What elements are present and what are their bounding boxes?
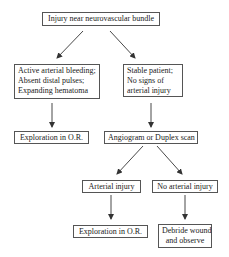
node-label: Arterial injury: [86, 182, 137, 192]
node-label: Injury near neurovascular bundle: [46, 14, 156, 24]
node-injury-near-neurovascular-bundle: Injury near neurovascular bundle: [42, 12, 160, 26]
node-label: Exploration in O.R.: [18, 133, 85, 143]
node-label-line: and observe: [162, 236, 208, 246]
arrow-layer: [0, 0, 229, 257]
node-label-line: Active arterial bleeding;: [18, 66, 96, 76]
node-label-line: Expanding hematoma: [18, 86, 96, 96]
node-label-line: No signs of: [127, 76, 179, 86]
node-arterial-injury: Arterial injury: [82, 180, 141, 193]
node-label: Angiogram or Duplex scan: [108, 133, 194, 143]
flowchart-canvas: Injury near neurovascular bundle Active …: [0, 0, 229, 257]
arrow-imaging-to-no-arterial: [157, 146, 182, 174]
node-no-arterial-injury: No arterial injury: [152, 180, 218, 193]
node-unstable-signs: Active arterial bleeding; Absent distal …: [14, 64, 100, 99]
node-label-line: Stable patient;: [127, 66, 179, 76]
node-label-line: arterial injury: [127, 86, 179, 96]
node-exploration-in-or-bottom: Exploration in O.R.: [73, 225, 148, 238]
node-exploration-in-or-left: Exploration in O.R.: [14, 131, 89, 144]
node-label-line: Absent distal pulses;: [18, 76, 96, 86]
node-label: Exploration in O.R.: [77, 227, 144, 237]
arrow-root-to-stable: [110, 31, 135, 58]
arrow-imaging-to-arterial: [117, 146, 143, 174]
node-label-line: Debride wound: [162, 226, 208, 236]
node-angiogram-or-duplex-scan: Angiogram or Duplex scan: [104, 131, 198, 144]
node-stable-patient: Stable patient; No signs of arterial inj…: [123, 64, 183, 97]
node-label: No arterial injury: [156, 182, 214, 192]
node-debride-wound-and-observe: Debride wound and observe: [158, 224, 212, 248]
arrow-root-to-unstable: [57, 31, 83, 58]
